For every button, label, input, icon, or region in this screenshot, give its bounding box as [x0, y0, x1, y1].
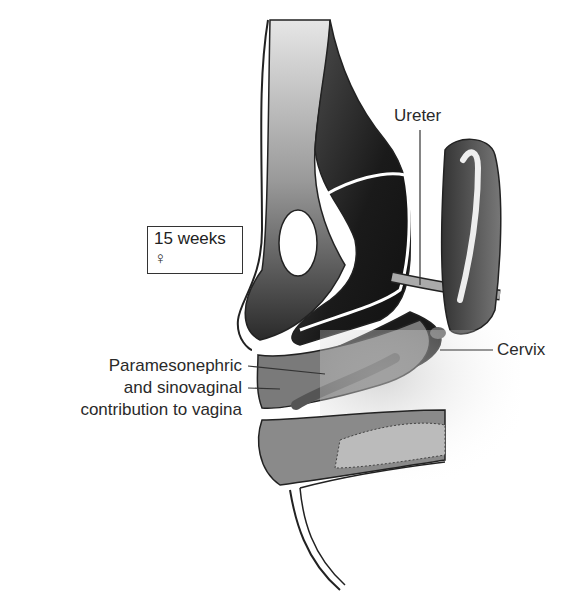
lower-body-wall: [290, 490, 340, 590]
ureter-label: Ureter: [394, 106, 441, 126]
pubic-bone: [279, 210, 317, 276]
stage-box: 15 weeks ♀: [147, 226, 243, 274]
female-symbol-icon: ♀: [154, 249, 167, 269]
vagina-label-line3: contribution to vagina: [80, 400, 242, 420]
vagina-label-line2: and sinovaginal: [124, 378, 242, 398]
cervix-label: Cervix: [497, 340, 545, 360]
stage-age: 15 weeks: [154, 229, 226, 249]
anatomical-illustration: [0, 0, 577, 605]
vagina-label-line1: Paramesonephric: [109, 356, 242, 376]
